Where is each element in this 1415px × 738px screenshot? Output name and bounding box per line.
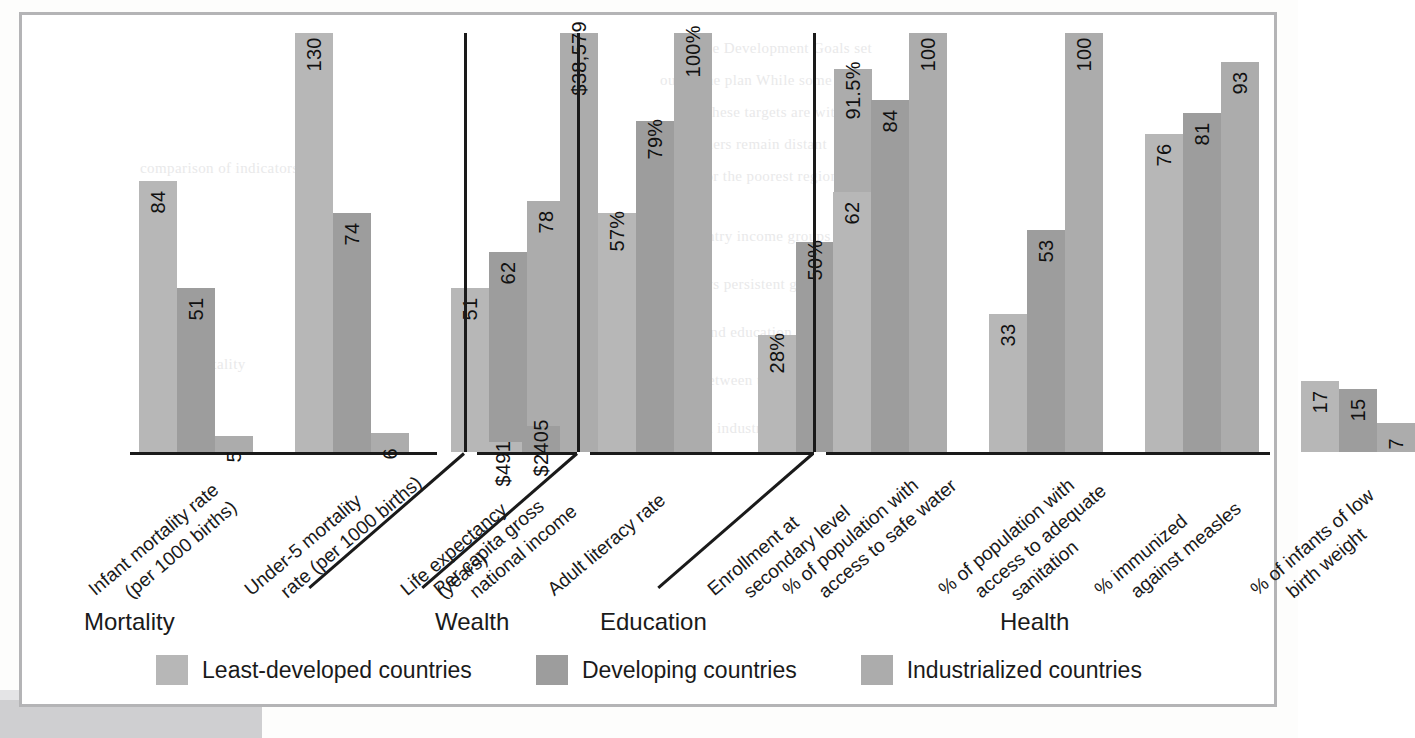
category-label: Infant mortality rate(per 1000 births)	[83, 476, 242, 621]
bar	[139, 181, 177, 452]
axis-baseline	[826, 452, 1270, 455]
category-label: % of infants of lowbirth weight	[1245, 483, 1395, 620]
bar	[333, 213, 371, 452]
bar	[1183, 113, 1221, 452]
axis-baseline	[590, 452, 814, 455]
bar	[674, 33, 712, 452]
bar	[215, 436, 253, 452]
group-divider-line	[813, 33, 816, 452]
bar	[295, 33, 333, 452]
chart-legend: Least-developed countries Developing cou…	[0, 655, 1298, 685]
group-name-mortality: Mortality	[84, 608, 175, 636]
bar	[1221, 62, 1259, 452]
legend-item: Industrialized countries	[861, 655, 1142, 685]
bar	[1027, 230, 1065, 452]
legend-label: Developing countries	[582, 657, 797, 684]
bar	[909, 33, 947, 452]
legend-item: Least-developed countries	[156, 655, 472, 685]
category-label: Under-5 mortalityrate (per 1000 births)	[239, 451, 427, 620]
group-name-health: Health	[1000, 608, 1069, 636]
legend-item: Developing countries	[536, 655, 797, 685]
bar	[636, 121, 674, 452]
legend-label: Industrialized countries	[907, 657, 1142, 684]
bar	[833, 192, 871, 452]
bar	[1145, 134, 1183, 452]
legend-swatch-icon	[156, 655, 188, 685]
category-label-line: rate (per 1000 births)	[255, 470, 427, 620]
legend-label: Least-developed countries	[202, 657, 472, 684]
group-divider-line	[464, 33, 467, 452]
group-divider-line	[577, 33, 580, 452]
group-name-wealth: Wealth	[435, 608, 509, 636]
bar	[1065, 33, 1103, 452]
group-name-education: Education	[600, 608, 707, 636]
legend-swatch-icon	[536, 655, 568, 685]
bar	[871, 100, 909, 452]
legend-swatch-icon	[861, 655, 893, 685]
